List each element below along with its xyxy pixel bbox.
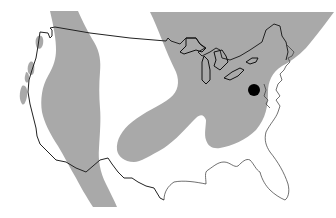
- pacific-coast-patch-south: [20, 86, 28, 105]
- us-range-map: [0, 0, 336, 218]
- location-marker: [248, 84, 260, 96]
- pacific-coast-patch-south2: [25, 72, 29, 83]
- western-range-area: [41, 11, 117, 207]
- eastern-range-area: [117, 12, 334, 162]
